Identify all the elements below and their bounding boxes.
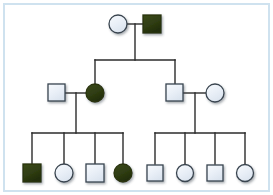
individual-III-5-male-unaffected[interactable] (147, 165, 163, 181)
individual-III-7-male-unaffected[interactable] (207, 165, 223, 181)
generation-III (23, 164, 254, 182)
individual-III-8-female-unaffected[interactable] (237, 165, 254, 182)
individual-II-4-female-unaffected[interactable] (206, 84, 224, 102)
pedigree-diagram (0, 0, 273, 195)
individual-I-2-male-affected[interactable] (143, 15, 161, 33)
individual-II-1-male-unaffected[interactable] (48, 84, 65, 101)
individual-II-3-male-unaffected[interactable] (166, 84, 183, 101)
individual-I-1-female-unaffected[interactable] (109, 15, 127, 33)
pedigree-figure (0, 0, 273, 195)
individual-III-1-male-affected[interactable] (23, 164, 41, 182)
individual-II-2-female-affected[interactable] (86, 84, 104, 102)
individual-III-6-female-unaffected[interactable] (177, 165, 194, 182)
individual-III-4-female-affected[interactable] (114, 164, 132, 182)
individual-III-2-female-unaffected[interactable] (55, 164, 73, 182)
individual-III-3-male-unaffected[interactable] (86, 164, 104, 182)
